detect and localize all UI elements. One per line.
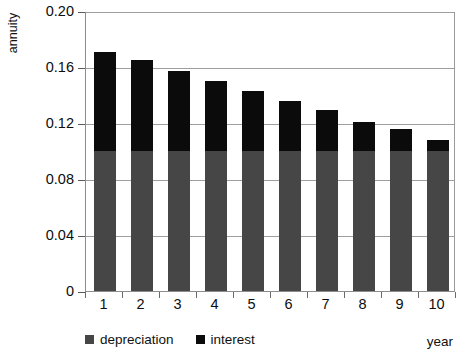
bar-group [353,11,375,291]
y-axis-tick-mark [78,292,85,293]
bar-segment-interest [279,101,301,151]
x-axis-title: year [427,334,453,349]
bar-segment-interest [205,81,227,151]
bar-segment-interest [94,52,116,151]
bar-segment-depreciation [427,151,449,291]
bar-segment-depreciation [168,151,190,291]
x-axis-tick-label: 8 [343,297,383,312]
bar-group [205,11,227,291]
x-axis-tick-label: 2 [121,297,161,312]
legend-item: interest [196,332,255,347]
bar-group [94,11,116,291]
bar-group [427,11,449,291]
bar-segment-depreciation [94,151,116,291]
x-axis-tick-label: 1 [84,297,124,312]
bar-group [168,11,190,291]
bar-group [316,11,338,291]
x-axis-tick-label: 3 [158,297,198,312]
bar-segment-interest [353,122,375,151]
bar-group [279,11,301,291]
bar-group [242,11,264,291]
bar-group [390,11,412,291]
bar-segment-depreciation [242,151,264,291]
x-axis-tick-mark [455,292,456,298]
legend-swatch-icon [85,335,94,344]
bar-segment-interest [316,110,338,151]
x-axis-tick-label: 4 [195,297,235,312]
legend-item: depreciation [85,332,174,347]
bar-segment-interest [168,71,190,151]
bar-segment-depreciation [131,151,153,291]
x-axis-tick-label: 9 [380,297,420,312]
plot-area [85,12,455,292]
x-axis-tick-label: 6 [269,297,309,312]
bar-segment-interest [242,91,264,151]
y-axis-tick-mark [78,124,85,125]
y-axis-tick-mark [78,180,85,181]
chart-legend: depreciationinterest [85,330,255,348]
y-axis-tick-mark [78,236,85,237]
bar-segment-depreciation [390,151,412,291]
x-axis-tick-label: 5 [232,297,272,312]
legend-label: interest [211,332,255,347]
y-axis-tick-mark [78,12,85,13]
bar-segment-interest [427,140,449,151]
legend-swatch-icon [196,335,205,344]
bar-segment-interest [131,60,153,151]
annuity-stacked-bar-chart: annuity 00.040.080.120.160.20 1234567891… [0,0,463,361]
bar-segment-depreciation [353,151,375,291]
bar-segment-depreciation [279,151,301,291]
x-axis-tick-label: 7 [306,297,346,312]
legend-label: depreciation [100,332,174,347]
bar-segment-depreciation [205,151,227,291]
bar-series-container [86,13,454,291]
x-axis-tick-label: 10 [417,297,457,312]
y-axis-tick-mark [78,68,85,69]
bar-segment-interest [390,129,412,151]
bar-segment-depreciation [316,151,338,291]
bar-group [131,11,153,291]
